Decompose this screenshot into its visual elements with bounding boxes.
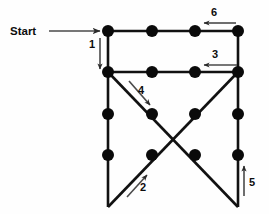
- network-path-diagram: Start 1 2 3 4 5 6: [0, 0, 269, 214]
- node-r1c1: [102, 25, 114, 37]
- node-r3c1: [102, 108, 114, 120]
- node-r2c2: [146, 66, 158, 78]
- node-r4c2: [146, 149, 158, 161]
- direction-arrow-3: 3: [204, 48, 237, 65]
- node-r2c4: [232, 66, 244, 78]
- direction-arrow-5: 5: [244, 166, 255, 196]
- arrow-label-4: 4: [138, 84, 145, 96]
- node-r4c1: [102, 149, 114, 161]
- node-r1c3: [189, 25, 201, 37]
- node-r2c1: [102, 66, 114, 78]
- diagram-canvas: Start 1 2 3 4 5 6: [0, 0, 269, 214]
- node-r3c3: [189, 108, 201, 120]
- start-label: Start: [10, 25, 36, 37]
- edge-group: [108, 31, 238, 207]
- direction-arrow-1: 1: [89, 38, 100, 69]
- arrow-label-3: 3: [212, 48, 218, 60]
- arrow-label-6: 6: [211, 6, 217, 18]
- node-r1c2: [146, 25, 158, 37]
- node-r1c4: [232, 25, 244, 37]
- start-arrow-group: Start: [10, 25, 100, 37]
- arrow-label-2: 2: [140, 181, 146, 193]
- arrow-label-5: 5: [249, 176, 255, 188]
- node-r4c4: [232, 149, 244, 161]
- arrow-label-1: 1: [89, 38, 95, 50]
- node-r3c4: [232, 108, 244, 120]
- direction-arrow-4: 4: [129, 81, 150, 105]
- node-r3c2: [146, 108, 158, 120]
- node-r4c3: [189, 149, 201, 161]
- node-r2c3: [189, 66, 201, 78]
- direction-arrow-6: 6: [204, 6, 236, 23]
